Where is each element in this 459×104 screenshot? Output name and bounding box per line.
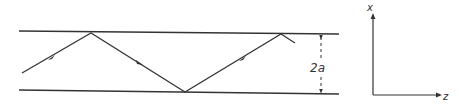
ray-arrow-icon (136, 60, 143, 65)
waveguide-top-boundary (19, 31, 339, 34)
waveguide-bottom-boundary (19, 90, 339, 94)
x-axis-label: x (366, 2, 373, 13)
thickness-label: 2a (310, 61, 325, 75)
waveguide-diagram: 2a x z (0, 0, 459, 104)
light-ray-path (22, 33, 295, 92)
z-axis-label: z (442, 91, 449, 102)
